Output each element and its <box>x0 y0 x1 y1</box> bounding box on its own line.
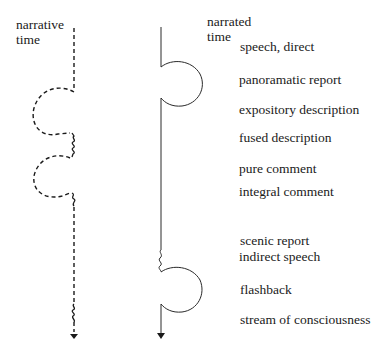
label-expository-description: expository description <box>239 102 359 118</box>
diagram-lines <box>0 0 388 351</box>
narrative-time-diagram: narrative time narrated time speech, dir… <box>0 0 388 351</box>
label-fused-description: fused description <box>239 130 332 146</box>
narrative-time-axis <box>33 28 74 332</box>
label-speech-direct: speech, direct <box>240 39 314 55</box>
title-line: narrative <box>16 17 64 32</box>
label-flashback: flashback <box>240 282 292 298</box>
arrowhead-icon <box>157 333 165 339</box>
label-pure-comment: pure comment <box>239 161 317 177</box>
arrowhead-icon <box>70 334 78 339</box>
label-scenic-report: scenic report <box>240 233 309 249</box>
label-integral-comment: integral comment <box>239 184 334 200</box>
label-panoramatic-report: panoramatic report <box>239 72 341 88</box>
title-line: narrated <box>207 14 251 29</box>
label-indirect-speech: indirect speech <box>239 249 320 265</box>
narrated-time-axis <box>159 27 202 333</box>
title-line: time <box>16 32 64 47</box>
label-stream-of-consciousness: stream of consciousness <box>240 312 370 328</box>
narrative-time-title: narrative time <box>16 17 64 47</box>
